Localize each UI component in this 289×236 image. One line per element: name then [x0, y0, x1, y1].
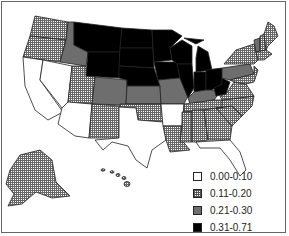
state-nm — [89, 104, 120, 138]
legend-item-4: 0.31-0.71 — [193, 219, 252, 236]
swatch-black-icon — [193, 223, 202, 232]
legend-item-2: 0.11-0.20 — [193, 185, 252, 202]
swatch-white-icon — [193, 172, 202, 181]
state-az — [58, 102, 92, 138]
swatch-gray-icon — [193, 206, 202, 215]
state-mt — [74, 22, 122, 52]
legend-label: 0.31-0.71 — [210, 222, 252, 233]
state-ms — [180, 112, 192, 142]
state-ks — [126, 86, 161, 104]
state-ar — [161, 104, 184, 126]
legend-label: 0.00-0.10 — [210, 171, 252, 182]
state-in — [194, 72, 206, 92]
legend-item-1: 0.00-0.10 — [193, 168, 252, 185]
state-ia — [154, 62, 180, 80]
state-ny — [224, 44, 258, 64]
state-ma-ct-ri — [256, 50, 272, 60]
state-sd — [119, 48, 154, 68]
legend-label: 0.11-0.20 — [210, 188, 252, 199]
swatch-hatch-icon — [193, 189, 202, 198]
legend-item-3: 0.21-0.30 — [193, 202, 252, 219]
legend-label: 0.21-0.30 — [210, 205, 252, 216]
state-ak — [6, 150, 70, 206]
state-me — [264, 22, 278, 50]
state-nd — [120, 28, 153, 48]
state-wy — [86, 52, 120, 78]
map-legend: 0.00-0.10 0.11-0.20 0.21-0.30 0.31-0.71 — [193, 168, 252, 236]
state-hi — [101, 169, 130, 187]
state-co — [92, 77, 127, 105]
